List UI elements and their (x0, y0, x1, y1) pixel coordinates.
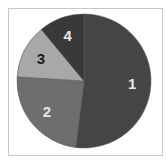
slice-label-4: 4 (64, 27, 73, 44)
pie-chart: 1234 (0, 0, 167, 163)
slice-label-3: 3 (37, 50, 45, 67)
slice-label-2: 2 (43, 103, 51, 120)
pie-slice-1 (76, 14, 151, 148)
slice-label-1: 1 (128, 75, 136, 92)
